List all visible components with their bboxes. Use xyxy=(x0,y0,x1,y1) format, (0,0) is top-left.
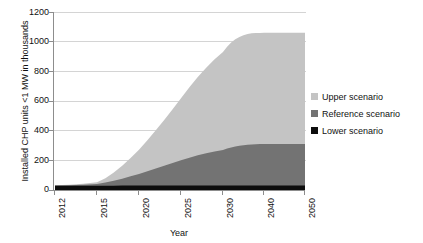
x-tick-mark-2020 xyxy=(138,191,139,195)
stacked-area-series xyxy=(54,12,306,190)
x-tick-mark-2015 xyxy=(96,191,97,195)
y-tick-label-200: 200 xyxy=(15,156,49,165)
x-axis-title: Year xyxy=(53,228,305,238)
y-tick-label-0: 0 xyxy=(15,185,49,194)
x-tick-label-2020: 2020 xyxy=(142,198,151,218)
y-tick-label-400: 400 xyxy=(15,126,49,135)
y-tick-label-800: 800 xyxy=(15,67,49,76)
x-tick-label-2040: 2040 xyxy=(267,198,276,218)
x-tick-label-2015: 2015 xyxy=(100,198,109,218)
x-tick-label-2012: 2012 xyxy=(58,198,67,218)
legend-label-reference-scenario: Reference scenario xyxy=(322,109,400,119)
x-tick-mark-2030 xyxy=(222,191,223,195)
x-tick-label-2025: 2025 xyxy=(184,198,193,218)
x-axis-line xyxy=(53,190,305,191)
legend-label-lower-scenario: Lower scenario xyxy=(322,126,383,136)
legend-item-lower-scenario: Lower scenario xyxy=(311,122,423,139)
legend-swatch-reference-scenario xyxy=(311,110,318,117)
plot-inner xyxy=(54,12,306,190)
chart-legend: Upper scenario Reference scenario Lower … xyxy=(311,88,423,139)
y-tick-label-1200: 1200 xyxy=(15,8,49,17)
legend-item-upper-scenario: Upper scenario xyxy=(311,88,423,105)
x-tick-mark-2025 xyxy=(180,191,181,195)
x-tick-mark-2050 xyxy=(304,191,305,195)
x-tick-mark-2012 xyxy=(54,191,55,195)
legend-label-upper-scenario: Upper scenario xyxy=(322,92,383,102)
x-tick-label-2050: 2050 xyxy=(308,198,317,218)
x-tick-mark-2040 xyxy=(263,191,264,195)
chart-figure: Installed CHP units <1 MW in thousands 1… xyxy=(0,0,423,243)
plot-area xyxy=(53,12,306,190)
y-tick-label-600: 600 xyxy=(15,96,49,105)
y-tick-label-1000: 1000 xyxy=(15,37,49,46)
legend-swatch-upper-scenario xyxy=(311,93,318,100)
x-tick-label-2030: 2030 xyxy=(226,198,235,218)
legend-swatch-lower-scenario xyxy=(311,127,318,134)
legend-item-reference-scenario: Reference scenario xyxy=(311,105,423,122)
